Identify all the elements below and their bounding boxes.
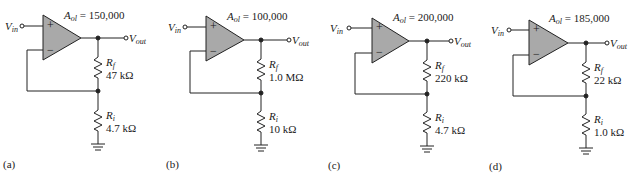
vout-label: Vout: [454, 35, 471, 49]
rf-value: 47 kΩ: [106, 69, 133, 81]
ri-label: Ri: [594, 113, 603, 127]
rf-value: 1.0 MΩ: [269, 71, 303, 83]
vin-label: Vin: [330, 22, 343, 36]
rf-label: Rf: [594, 61, 603, 75]
minus-input-sign: −: [47, 44, 54, 56]
plus-input-sign: +: [47, 19, 54, 31]
open-loop-gain: Aol = 185,000: [549, 12, 609, 26]
vout-label: Vout: [129, 32, 146, 46]
circuit-panel-d: + − Aol = 185,000 Vin Vout Rf 22 kΩ Ri 1…: [473, 0, 631, 185]
panel-label: (c): [328, 159, 340, 171]
panel-label: (b): [166, 158, 179, 170]
vout-label: Vout: [610, 37, 627, 51]
plus-input-sign: +: [533, 23, 540, 35]
panel-label: (a): [3, 158, 15, 170]
ri-label: Ri: [106, 109, 115, 123]
rf-label: Rf: [106, 56, 115, 70]
vin-label: Vin: [5, 20, 18, 34]
ri-value: 4.7 kΩ: [106, 122, 136, 134]
ri-value: 4.7 kΩ: [435, 124, 465, 136]
vin-label: Vin: [491, 24, 504, 38]
rf-value: 22 kΩ: [594, 74, 621, 86]
rf-value: 220 kΩ: [435, 72, 468, 84]
open-loop-gain: Aol = 100,000: [227, 10, 287, 24]
ri-label: Ri: [435, 111, 444, 125]
circuit-schematic: [163, 0, 321, 185]
open-loop-gain: Aol = 150,000: [64, 9, 124, 23]
vin-label: Vin: [168, 21, 181, 35]
plus-input-sign: +: [376, 21, 383, 33]
ri-label: Ri: [269, 110, 278, 124]
rf-label: Rf: [269, 58, 278, 72]
minus-input-sign: −: [533, 48, 540, 60]
rf-label: Rf: [435, 59, 444, 73]
circuit-schematic: [0, 0, 158, 185]
minus-input-sign: −: [376, 46, 383, 58]
panel-label: (d): [489, 160, 502, 172]
open-loop-gain: Aol = 200,000: [393, 11, 453, 25]
vout-label: Vout: [292, 34, 309, 48]
circuit-panel-b: + − Aol = 100,000 Vin Vout Rf 1.0 MΩ Ri …: [163, 0, 321, 185]
plus-input-sign: +: [210, 20, 217, 32]
ri-value: 1.0 kΩ: [594, 126, 624, 138]
minus-input-sign: −: [210, 45, 217, 57]
circuit-schematic: [325, 0, 483, 185]
circuit-panel-a: + − Aol = 150,000 Vin Vout Rf 47 kΩ Ri 4…: [0, 0, 158, 185]
ri-value: 10 kΩ: [269, 123, 296, 135]
circuit-panel-c: + − Aol = 200,000 Vin Vout Rf 220 kΩ Ri …: [325, 0, 483, 185]
